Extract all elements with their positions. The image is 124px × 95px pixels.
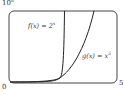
x-min-label: 0 bbox=[2, 84, 6, 91]
g-curve-label: g(x) = x5 bbox=[82, 53, 111, 60]
y-max-label: 108 bbox=[2, 0, 14, 7]
chart-canvas bbox=[0, 0, 124, 95]
viewing-window-frame bbox=[9, 11, 117, 83]
x-max-label: 5 bbox=[119, 80, 123, 87]
f-curve-label: f(x) = 2x bbox=[28, 23, 55, 30]
